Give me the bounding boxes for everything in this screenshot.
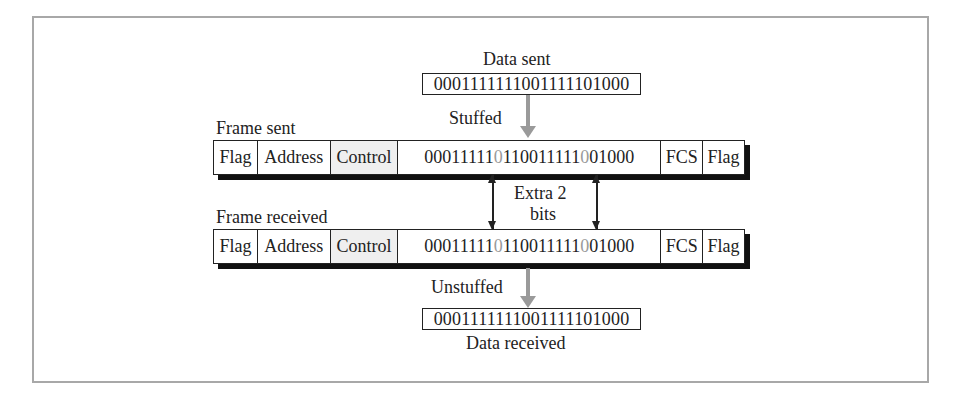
payload-segment: 01000 <box>589 236 634 256</box>
payload-segment: 110011111 <box>503 236 581 256</box>
unstuffed-arrow-icon <box>526 268 530 298</box>
frame-received-fcs: FCS <box>661 230 703 263</box>
frame-received-address: Address <box>258 230 331 263</box>
frame-received: Flag Address Control 0001111101100111110… <box>213 229 745 264</box>
frame-received-end-flag: Flag <box>703 230 744 263</box>
stuffed-bit: 0 <box>580 147 589 167</box>
stuffed-label: Stuffed <box>449 108 502 128</box>
extra-bit-arrow-icon <box>492 175 494 229</box>
payload-segment: 00011111 <box>424 147 493 167</box>
payload-segment: 01000 <box>589 147 634 167</box>
unstuffed-label: Unstuffed <box>431 277 503 297</box>
data-received-bits: 0001111111001111101000 <box>422 308 641 330</box>
frame-sent: Flag Address Control 0001111101100111110… <box>213 140 745 175</box>
frame-received-label: Frame received <box>216 207 327 227</box>
frame-received-payload: 000111110110011111001000 <box>398 230 661 263</box>
data-sent-label: Data sent <box>483 49 550 69</box>
extra-bits-label-line2: bits <box>530 204 556 224</box>
payload-segment: 110011111 <box>503 147 581 167</box>
payload-segment: 00011111 <box>424 236 493 256</box>
extra-bits-label-line1: Extra 2 <box>514 183 566 203</box>
data-sent-bits: 0001111111001111101000 <box>422 73 641 95</box>
frame-sent-payload: 000111110110011111001000 <box>398 141 661 174</box>
frame-sent-label: Frame sent <box>216 118 295 138</box>
extra-bit-arrow-icon <box>596 175 598 229</box>
frame-sent-end-flag: Flag <box>703 141 744 174</box>
frame-received-flag: Flag <box>214 230 258 263</box>
stuffed-bit: 0 <box>494 147 503 167</box>
frame-sent-flag: Flag <box>214 141 258 174</box>
frame-sent-fcs: FCS <box>661 141 703 174</box>
stuffed-bit: 0 <box>494 236 503 256</box>
data-received-label: Data received <box>466 333 565 353</box>
frame-received-control: Control <box>331 230 399 263</box>
frame-sent-control: Control <box>331 141 399 174</box>
stuffed-arrow-icon <box>526 95 530 128</box>
stuffed-bit: 0 <box>580 236 589 256</box>
frame-sent-address: Address <box>258 141 331 174</box>
